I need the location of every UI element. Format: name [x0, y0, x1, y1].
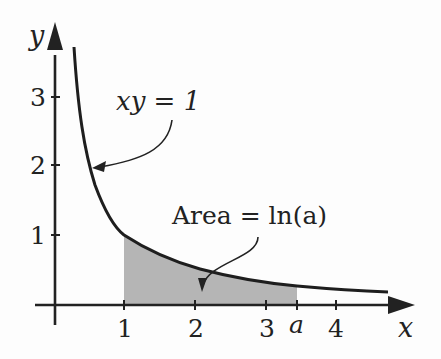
y-tick-1: 1 — [30, 223, 46, 248]
y-tick-3: 3 — [30, 85, 46, 110]
y-tick-2: 2 — [30, 153, 46, 178]
diagram-canvas — [0, 0, 441, 359]
shaded-area — [124, 235, 297, 305]
x-tick-3: 3 — [259, 316, 275, 341]
area-label: Area = ln(a) — [172, 203, 327, 228]
y-axis-arrow-icon — [47, 22, 63, 50]
y-axis-label: y — [29, 22, 44, 49]
x-tick-1: 1 — [117, 316, 133, 341]
hyperbola-curve — [74, 47, 388, 292]
curve-equation-text: xy = 1 — [116, 86, 200, 116]
x-tick-2: 2 — [188, 316, 204, 341]
curve-label-pointer — [100, 120, 172, 167]
curve-pointer-arrowhead-icon — [92, 161, 106, 172]
x-axis-label: x — [398, 314, 413, 341]
hyperbola-diagram: y x 1 2 3 a 4 1 2 3 xy = 1 Area = ln(a) — [0, 0, 441, 359]
x-tick-a: a — [289, 312, 304, 337]
curve-equation-label: xy = 1 — [116, 88, 200, 114]
x-tick-4: 4 — [328, 316, 344, 341]
